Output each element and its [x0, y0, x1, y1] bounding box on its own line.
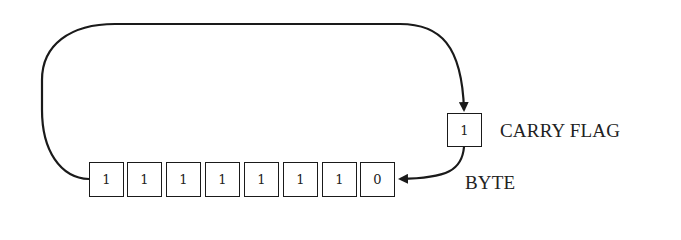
bit-2: 1 [283, 162, 318, 197]
bit-1: 1 [322, 162, 357, 197]
byte-label: BYTE [465, 172, 515, 194]
carry-flag-box: 1 [447, 113, 482, 147]
bit-7: 1 [89, 162, 124, 197]
bit-5: 1 [166, 162, 201, 197]
carry-to-lsb-arrow [400, 147, 464, 179]
bit-4: 1 [205, 162, 240, 197]
msb-to-carry-arrow [42, 24, 464, 179]
bit-3: 1 [244, 162, 279, 197]
carry-flag-label: CARRY FLAG [500, 120, 620, 142]
bit-6: 1 [127, 162, 162, 197]
bit-0: 0 [360, 162, 395, 197]
